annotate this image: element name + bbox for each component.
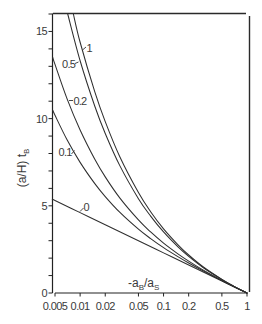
- x-tick-label: 1: [244, 300, 250, 312]
- curve-series-0.2: [53, 57, 247, 293]
- y-tick-label: 0: [41, 287, 47, 299]
- curve-label-0: 0: [84, 201, 90, 213]
- y-tick-label: 15: [36, 25, 48, 37]
- curve-label-leader-0.5: [75, 62, 79, 64]
- curve-label-0.5: 0.5: [62, 58, 76, 70]
- curve-series-0.5: [68, 14, 247, 293]
- curve-label-0.2: 0.2: [74, 95, 88, 107]
- x-tick-label: 0.005: [43, 300, 68, 312]
- x-tick-label: 0.2: [182, 300, 196, 312]
- y-tick-label: 10: [36, 113, 48, 125]
- x-ticks: 0.0050.010.020.050.10.20.51: [43, 293, 251, 312]
- x-tick-label: 0.5: [215, 300, 229, 312]
- y-axis-label: (a/H) tB: [15, 149, 31, 188]
- x-tick-label: 0.1: [157, 300, 171, 312]
- curve-label-leader-1: [83, 47, 87, 50]
- curves: [52, 14, 247, 293]
- x-axis-label: -aB/aS: [128, 276, 159, 292]
- x-tick-label: 0.05: [129, 300, 148, 312]
- y-tick-label: 5: [41, 200, 47, 212]
- x-tick-label: 0.02: [96, 300, 115, 312]
- chart: 051015 0.0050.010.020.050.10.20.51 -aB/a…: [0, 0, 262, 324]
- curve-series-0.1: [53, 110, 247, 293]
- curve-label-0.1: 0.1: [59, 146, 73, 158]
- y-ticks: 051015: [36, 14, 53, 299]
- curve-label-1: 1: [87, 42, 93, 54]
- x-tick-label: 0.01: [71, 300, 90, 312]
